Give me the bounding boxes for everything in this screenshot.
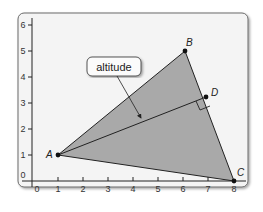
x-tick-label: 2 (80, 184, 85, 194)
y-tick-label: 0 (20, 170, 25, 180)
point-d (204, 95, 209, 100)
label-a: A (45, 149, 53, 160)
x-tick-label: 5 (155, 184, 160, 194)
y-tick-label: 4 (20, 72, 25, 82)
coordinate-plane: 0 1 2 3 4 5 6 7 8 0 1 2 3 4 5 6 A B C D … (0, 0, 263, 212)
x-tick-label: 3 (105, 184, 110, 194)
x-tick-label: 7 (205, 184, 210, 194)
diagram: 0 1 2 3 4 5 6 7 8 0 1 2 3 4 5 6 A B C D … (0, 0, 263, 212)
x-tick-label: 6 (180, 184, 185, 194)
x-tick-label: 0 (34, 184, 39, 194)
label-d: D (211, 87, 218, 98)
y-tick-label: 5 (20, 46, 25, 56)
point-c (232, 179, 237, 184)
point-b (183, 49, 188, 54)
y-tick-label: 6 (20, 20, 25, 30)
point-a (56, 153, 61, 158)
callout-label: altitude (96, 61, 131, 73)
y-tick-label: 2 (20, 124, 25, 134)
y-tick-label: 3 (20, 98, 25, 108)
x-tick-label: 1 (55, 184, 60, 194)
y-tick-label: 1 (20, 150, 25, 160)
label-c: C (237, 167, 245, 178)
label-b: B (186, 37, 193, 48)
x-tick-label: 8 (231, 184, 236, 194)
x-tick-label: 4 (130, 184, 135, 194)
